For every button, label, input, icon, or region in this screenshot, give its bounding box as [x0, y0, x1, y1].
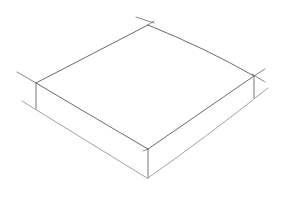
construction-lines	[17, 17, 265, 151]
vertical-edges	[36, 76, 254, 178]
bottom-edges	[22, 88, 268, 178]
top-face	[36, 25, 254, 149]
box-sketch	[0, 0, 288, 200]
